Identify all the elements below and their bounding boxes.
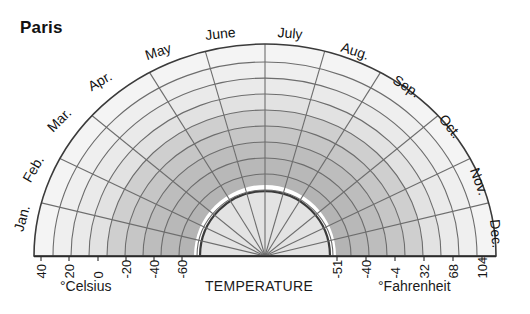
tick-celsius-5: -60 — [175, 264, 189, 298]
tick-fahrenheit-0: -51 — [330, 264, 344, 298]
month-label-june: June — [204, 24, 236, 43]
month-label-dec: Dec. — [487, 219, 505, 249]
fahrenheit-unit-label: °Fahrenheit — [378, 278, 451, 294]
temperature-axis-label: TEMPERATURE — [205, 278, 313, 294]
tick-celsius-0: 40 — [34, 264, 48, 298]
page-title: Paris — [20, 18, 63, 38]
tick-celsius-4: -40 — [147, 264, 161, 298]
celsius-unit-label: °Celsius — [60, 278, 112, 294]
tick-fahrenheit-1: -40 — [359, 264, 373, 298]
month-label-july: July — [277, 24, 303, 42]
chart-root: Paris 40 20 0 -20 -40 -60 -51 -40 -4 32 … — [0, 0, 530, 314]
tick-celsius-3: -20 — [119, 264, 133, 298]
tick-fahrenheit-5: 104 — [475, 264, 489, 298]
